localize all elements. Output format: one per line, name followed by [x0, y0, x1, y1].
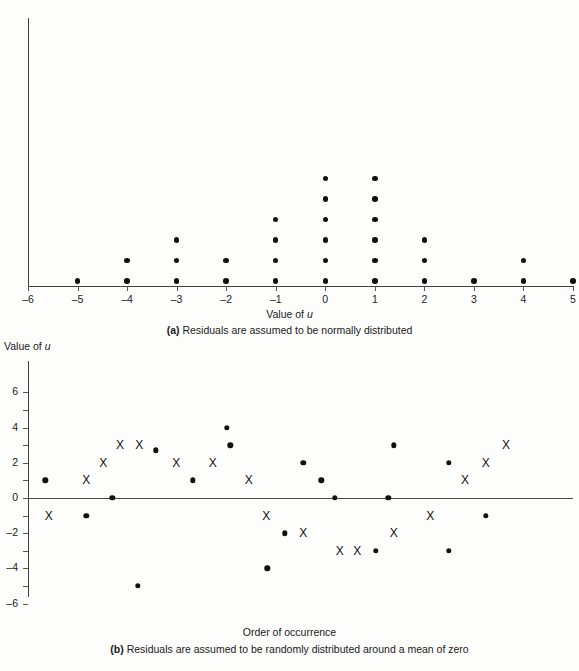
panel-b-tick: [23, 551, 28, 552]
panel-b-dot-marker: [301, 460, 306, 465]
panel-b-dot-marker: [386, 495, 391, 500]
panel-a-dot: [174, 278, 179, 283]
panel-b-tick: [23, 410, 28, 411]
panel-a-dot: [323, 278, 328, 283]
panel-b-tick-label: 4: [0, 421, 18, 433]
panel-b-tick-label: –2: [0, 526, 18, 538]
panel-a-tick: [226, 286, 227, 291]
panel-b-tick: [23, 604, 28, 605]
panel-a-tick: [28, 286, 29, 291]
panel-b-x-marker: X: [245, 474, 253, 486]
panel-a-dot: [273, 217, 278, 222]
panel-b-tick: [23, 533, 28, 534]
panel-a-tick: [375, 286, 376, 291]
panel-a-tick: [424, 286, 425, 291]
panel-a-tick-label: –2: [211, 293, 241, 305]
panel-b-tick: [23, 392, 28, 393]
panel-b-x-marker: X: [482, 457, 490, 469]
panel-b-dot-marker: [153, 448, 158, 453]
panel-b-x-marker: X: [99, 457, 107, 469]
panel-b-x-marker: X: [116, 439, 124, 451]
panel-b-tick: [23, 568, 28, 569]
panel-a-dot: [372, 196, 377, 201]
panel-a-tick-label: –3: [162, 293, 192, 305]
panel-a-tick: [177, 286, 178, 291]
panel-b-x-marker: X: [82, 474, 90, 486]
panel-a-tick-label: –5: [63, 293, 93, 305]
panel-b-dot-marker: [84, 513, 89, 518]
panel-a-dot: [323, 176, 328, 181]
panel-a-dot: [372, 237, 377, 242]
panel-b-y-axis-title: Value of u: [4, 340, 51, 352]
panel-a-tick: [523, 286, 524, 291]
panel-a-dot: [570, 278, 575, 283]
panel-a-dot: [372, 278, 377, 283]
panel-b-x-marker: X: [135, 439, 143, 451]
panel-b-dot-marker: [135, 583, 140, 588]
panel-a-tick: [325, 286, 326, 291]
panel-b-tick: [23, 480, 28, 481]
panel-b-x-marker: X: [461, 474, 469, 486]
panel-b-x-marker: X: [299, 527, 307, 539]
panel-b-x-marker: X: [336, 545, 344, 557]
panel-a-tick: [474, 286, 475, 291]
panel-b-tick: [23, 498, 28, 499]
panel-a-tick-label: 1: [360, 293, 390, 305]
panel-b-dot-marker: [319, 478, 324, 483]
panel-a-dot: [223, 258, 228, 263]
panel-b-x-marker: X: [262, 510, 270, 522]
panel-a-dot: [372, 217, 377, 222]
panel-a-dot: [521, 258, 526, 263]
panel-b-tick: [23, 463, 28, 464]
panel-b-caption: (b) Residuals are assumed to be randomly…: [0, 643, 579, 655]
panel-a-caption-text: Residuals are assumed to be normally dis…: [182, 324, 412, 336]
panel-a-x-axis: [28, 286, 573, 287]
panel-a-tick-label: 3: [459, 293, 489, 305]
panel-a-tick-label: 4: [508, 293, 538, 305]
panel-a-dot: [323, 196, 328, 201]
panel-a-dot: [174, 258, 179, 263]
panel-b-tick-label: 6: [0, 385, 18, 397]
panel-a-dot: [422, 258, 427, 263]
panel-a-dot: [372, 258, 377, 263]
panel-a-dot: [273, 237, 278, 242]
panel-a-dot: [223, 278, 228, 283]
panel-a-dot: [323, 217, 328, 222]
panel-b-tick: [23, 428, 28, 429]
panel-b-caption-text: Residuals are assumed to be randomly dis…: [127, 643, 469, 655]
panel-b-x-marker: X: [209, 457, 217, 469]
panel-a-caption: (a) Residuals are assumed to be normally…: [0, 324, 579, 336]
panel-a-dot: [124, 258, 129, 263]
panel-b-tick-label: 0: [0, 491, 18, 503]
panel-a-dot: [75, 278, 80, 283]
panel-a-tick: [573, 286, 574, 291]
panel-b-x-marker: X: [172, 457, 180, 469]
panel-b-dot-marker: [282, 530, 287, 535]
panel-b-x-marker: X: [426, 510, 434, 522]
panel-b-dot-marker: [373, 548, 378, 553]
panel-b-x-marker: X: [390, 527, 398, 539]
panel-a-dot: [521, 278, 526, 283]
panel-a-dot: [422, 237, 427, 242]
panel-a-dot: [273, 278, 278, 283]
panel-a-dot-plot: –6–5–4–3–2–1012345 Value of u (a) Residu…: [0, 0, 579, 335]
panel-b-tick-label: –4: [0, 561, 18, 573]
panel-b-x-marker: X: [502, 439, 510, 451]
panel-b-y-axis: [28, 361, 29, 597]
panel-a-caption-tag: (a): [167, 324, 180, 336]
panel-b-tick: [23, 445, 28, 446]
panel-b-dot-marker: [446, 548, 451, 553]
panel-a-tick: [78, 286, 79, 291]
panel-a-tick-label: –6: [13, 293, 43, 305]
panel-b-scatter-plot: Value of u 6420–2–4–6 XXXXXXXXXXXXXXXXX …: [0, 340, 579, 671]
panel-b-dot-marker: [227, 442, 232, 447]
panel-a-dot: [323, 258, 328, 263]
panel-a-dot: [471, 278, 476, 283]
panel-a-tick-label: 2: [409, 293, 439, 305]
panel-b-dot-marker: [332, 495, 337, 500]
panel-b-dot-marker: [483, 513, 488, 518]
panel-b-x-marker: X: [353, 545, 361, 557]
panel-b-dot-marker: [43, 478, 48, 483]
panel-b-x-axis-title: Order of occurrence: [0, 626, 579, 638]
residual-plots-figure: –6–5–4–3–2–1012345 Value of u (a) Residu…: [0, 0, 579, 671]
